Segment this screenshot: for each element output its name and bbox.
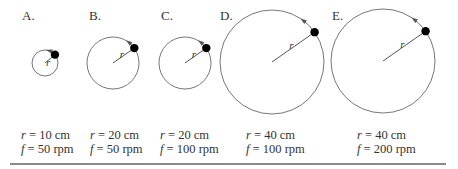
radius-value: = 40 cm xyxy=(254,128,295,142)
r-symbol: r xyxy=(90,128,95,142)
radius-value: = 20 cm xyxy=(98,128,139,142)
f-symbol: f xyxy=(246,142,249,156)
ball xyxy=(202,44,210,52)
caption-a: r = 10 cm f = 50 rpm xyxy=(21,128,74,156)
r-symbol: r xyxy=(246,128,251,142)
frequency-value: = 100 rpm xyxy=(167,142,219,156)
radius-label: r xyxy=(400,38,405,50)
radius-label: r xyxy=(46,56,51,68)
radius-value: = 20 cm xyxy=(168,128,209,142)
ball xyxy=(310,28,318,36)
bottom-rule xyxy=(10,163,446,165)
frequency-value: = 100 rpm xyxy=(253,142,305,156)
panel-label-d: D. xyxy=(220,8,233,24)
panel-label-a: A. xyxy=(22,8,35,24)
caption-e: r = 40 cm f = 200 rpm xyxy=(357,128,416,156)
frequency-value: = 50 rpm xyxy=(28,142,74,156)
radius-label: r xyxy=(120,48,125,60)
panel-label-e: E. xyxy=(332,8,343,24)
r-symbol: r xyxy=(357,128,362,142)
ball xyxy=(421,27,429,35)
radius-value: = 40 cm xyxy=(365,128,406,142)
frequency-value: = 200 rpm xyxy=(364,142,416,156)
panel-label-c: C. xyxy=(161,8,173,24)
f-symbol: f xyxy=(90,142,93,156)
caption-d: r = 40 cm f = 100 rpm xyxy=(246,128,305,156)
caption-c: r = 20 cm f = 100 rpm xyxy=(160,128,219,156)
radius-label: r xyxy=(192,48,197,60)
f-symbol: f xyxy=(21,142,24,156)
r-symbol: r xyxy=(160,128,165,142)
f-symbol: f xyxy=(160,142,163,156)
r-symbol: r xyxy=(21,128,26,142)
radius-label: r xyxy=(289,39,294,51)
panel-label-b: B. xyxy=(89,8,101,24)
frequency-value: = 50 rpm xyxy=(97,142,143,156)
caption-b: r = 20 cm f = 50 rpm xyxy=(90,128,143,156)
f-symbol: f xyxy=(357,142,360,156)
ball xyxy=(130,44,138,52)
ball xyxy=(51,50,59,58)
radius-value: = 10 cm xyxy=(29,128,70,142)
